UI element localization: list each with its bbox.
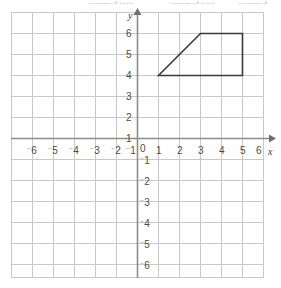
x-tick-label-1: 1 xyxy=(156,146,162,156)
y-tick-label-2: 2 xyxy=(126,113,132,123)
x-tick-label-neg5: ⁻5 xyxy=(48,146,58,156)
y-tick-label-neg5: ⁻5 xyxy=(140,240,150,250)
y-tick-label-neg6: ⁻6 xyxy=(140,261,150,271)
y-tick-label-neg3: ⁻3 xyxy=(140,198,150,208)
y-tick-label-neg1: ⁻1 xyxy=(140,156,150,166)
x-tick-label-neg4: ⁻4 xyxy=(69,146,79,156)
y-tick-label-neg2: ⁻2 xyxy=(140,177,150,187)
coordinate-plane-figure: cropped text cropped text cropped text xyxy=(0,0,281,288)
y-tick-label-neg4: ⁻4 xyxy=(140,219,150,229)
x-tick-label-4: 4 xyxy=(219,146,225,156)
x-tick-label-neg6: ⁻6 xyxy=(27,146,37,156)
x-axis-label: x xyxy=(268,147,272,157)
x-tick-label-neg1: ⁻1 xyxy=(126,146,136,156)
x-tick-label-neg2: ⁻2 xyxy=(111,146,121,156)
x-tick-label-6: 6 xyxy=(256,146,262,156)
y-tick-label-5: 5 xyxy=(126,50,132,60)
x-axis-arrowhead xyxy=(269,135,276,143)
y-tick-label-6: 6 xyxy=(126,29,132,39)
y-tick-label-1: 1 xyxy=(126,134,132,144)
x-tick-label-5: 5 xyxy=(240,146,246,156)
y-tick-label-3: 3 xyxy=(126,92,132,102)
x-tick-label-neg3: ⁻3 xyxy=(90,146,100,156)
origin-label: 0 xyxy=(140,144,146,154)
y-axis-label: y xyxy=(128,11,132,21)
y-tick-label-4: 4 xyxy=(126,71,132,81)
y-axis-arrowhead xyxy=(134,8,142,15)
x-tick-label-3: 3 xyxy=(198,146,204,156)
x-tick-label-2: 2 xyxy=(177,146,183,156)
